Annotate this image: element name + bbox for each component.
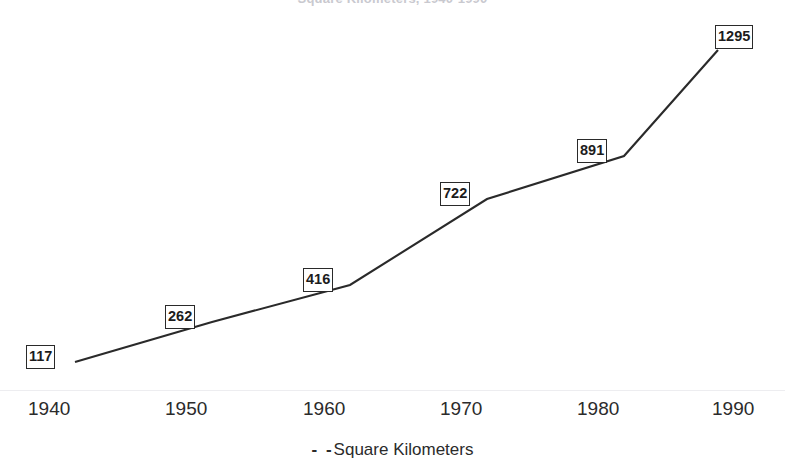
legend-dash-marker: - - <box>312 440 334 459</box>
x-tick-1970: 1970 <box>440 398 482 420</box>
data-label-1950: 262 <box>165 305 195 329</box>
x-tick-1990: 1990 <box>712 398 754 420</box>
x-tick-1980: 1980 <box>577 398 619 420</box>
x-tick-1940: 1940 <box>28 398 70 420</box>
data-label-1940: 117 <box>26 345 55 369</box>
plot-area <box>0 0 785 467</box>
legend-label-square-kilometers: Square Kilometers <box>334 440 474 459</box>
line-chart: Square Kilometers, 1940-1990 117 262 416… <box>0 0 785 467</box>
x-tick-1960: 1960 <box>303 398 345 420</box>
chart-legend: - -Square Kilometers <box>0 440 785 460</box>
data-label-1980: 891 <box>577 139 607 163</box>
data-label-1970: 722 <box>440 182 470 206</box>
x-tick-1950: 1950 <box>165 398 207 420</box>
data-label-1960: 416 <box>303 268 333 292</box>
data-label-1990: 1295 <box>715 25 753 49</box>
